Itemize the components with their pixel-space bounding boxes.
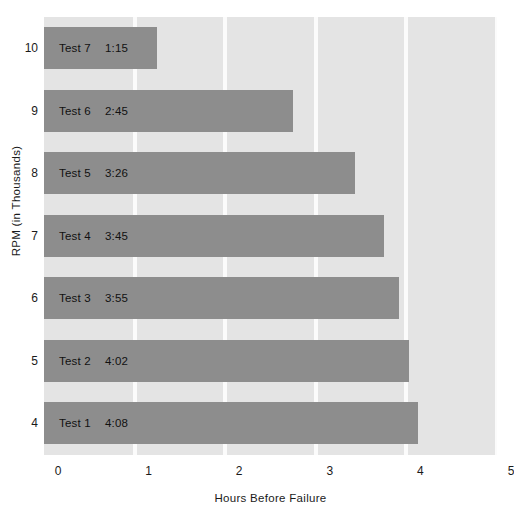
bar-test-5[interactable]: Test 53:26 xyxy=(44,152,355,194)
x-tick-1: 1 xyxy=(145,464,152,478)
bar-row: Test 43:45 xyxy=(44,205,497,268)
x-axis-tick-labels: 012345 xyxy=(0,464,514,482)
bar-test-2[interactable]: Test 24:02 xyxy=(44,340,409,382)
bar-test-name: Test 7 xyxy=(59,42,91,54)
bar-value-label: 3:45 xyxy=(105,230,128,242)
bar-test-4[interactable]: Test 43:45 xyxy=(44,215,384,257)
bar-row: Test 71:15 xyxy=(44,17,497,80)
bar-chart-figure: Test 71:15Test 62:45Test 53:26Test 43:45… xyxy=(0,0,514,518)
bar-label: Test 24:02 xyxy=(44,355,128,367)
x-tick-0: 0 xyxy=(55,464,62,478)
bar-test-7[interactable]: Test 71:15 xyxy=(44,27,157,69)
bar-test-name: Test 4 xyxy=(59,230,91,242)
bar-value-label: 1:15 xyxy=(105,42,128,54)
bar-row: Test 33:55 xyxy=(44,267,497,330)
x-tick-5: 5 xyxy=(508,464,514,478)
x-tick-2: 2 xyxy=(236,464,243,478)
y-tick-10: 10 xyxy=(4,41,38,55)
bar-value-label: 3:26 xyxy=(105,167,128,179)
y-tick-4: 4 xyxy=(4,416,38,430)
bar-test-name: Test 1 xyxy=(59,417,91,429)
bar-row: Test 14:08 xyxy=(44,392,497,455)
y-axis-title: RPM (in Thousands) xyxy=(10,101,22,301)
bar-value-label: 3:55 xyxy=(105,292,128,304)
x-tick-4: 4 xyxy=(417,464,424,478)
bar-value-label: 2:45 xyxy=(105,105,128,117)
bar-value-label: 4:02 xyxy=(105,355,128,367)
bar-test-name: Test 5 xyxy=(59,167,91,179)
bar-value-label: 4:08 xyxy=(105,417,128,429)
bar-test-6[interactable]: Test 62:45 xyxy=(44,90,293,132)
x-axis-title: Hours Before Failure xyxy=(44,492,497,504)
bar-test-1[interactable]: Test 14:08 xyxy=(44,402,418,444)
bar-label: Test 43:45 xyxy=(44,230,128,242)
bar-label: Test 71:15 xyxy=(44,42,128,54)
plot-area: Test 71:15Test 62:45Test 53:26Test 43:45… xyxy=(44,17,497,455)
bar-row: Test 53:26 xyxy=(44,142,497,205)
bar-label: Test 53:26 xyxy=(44,167,128,179)
bar-row: Test 24:02 xyxy=(44,330,497,393)
bar-test-name: Test 3 xyxy=(59,292,91,304)
bar-label: Test 62:45 xyxy=(44,105,128,117)
bar-label: Test 33:55 xyxy=(44,292,128,304)
x-tick-3: 3 xyxy=(326,464,333,478)
y-tick-5: 5 xyxy=(4,354,38,368)
bar-test-name: Test 2 xyxy=(59,355,91,367)
bar-test-name: Test 6 xyxy=(59,105,91,117)
bar-row: Test 62:45 xyxy=(44,80,497,143)
chart-title xyxy=(0,0,514,5)
bar-label: Test 14:08 xyxy=(44,417,128,429)
bar-test-3[interactable]: Test 33:55 xyxy=(44,277,399,319)
